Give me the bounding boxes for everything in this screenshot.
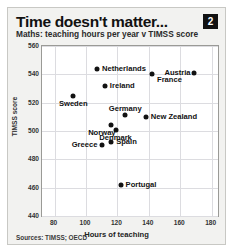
gridline-horizontal <box>42 159 218 160</box>
point-label: Sweden <box>59 99 88 108</box>
scatter-point <box>118 182 123 187</box>
scatter-point <box>109 140 114 145</box>
point-label: Netherlands <box>102 64 146 73</box>
y-tick-label: 560 <box>28 42 39 49</box>
scatter-point <box>192 70 197 75</box>
chart-subtitle: Maths: teaching hours per year v TIMSS s… <box>16 29 198 39</box>
scatter-point <box>150 72 155 77</box>
point-label: Germany <box>109 104 142 113</box>
panel-number-badge: 2 <box>203 14 218 29</box>
scatter-point <box>71 93 76 98</box>
y-tick-label: 540 <box>28 70 39 77</box>
gridline-horizontal <box>42 46 218 47</box>
x-axis-ticks: 80100120140160180 <box>41 219 219 230</box>
y-axis-label: TIMSS score <box>11 97 18 137</box>
x-tick-label: 100 <box>79 219 90 226</box>
scatter-point <box>123 113 128 118</box>
scatter-point <box>143 114 148 119</box>
y-tick-label: 480 <box>28 155 39 162</box>
chart-card: Time doesn't matter... 2 Maths: teaching… <box>7 7 226 245</box>
y-tick-label: 460 <box>28 183 39 190</box>
y-tick-label: 440 <box>28 212 39 219</box>
point-label: New Zealand <box>151 112 197 121</box>
point-label: Portugal <box>126 180 157 189</box>
point-label: Spain <box>116 137 137 146</box>
scatter-point <box>113 127 118 132</box>
x-tick-label: 160 <box>174 219 185 226</box>
source-note: Sources: TIMSS; OECD <box>16 234 87 241</box>
gridline-horizontal <box>42 216 218 217</box>
y-axis-ticks: 440460480500520540560 <box>16 45 39 217</box>
x-tick-label: 140 <box>142 219 153 226</box>
point-label: Greece <box>72 140 98 149</box>
plot-area: NetherlandsAustriaFranceIrelandSwedenGer… <box>41 45 219 217</box>
x-tick-label: 180 <box>205 219 216 226</box>
scatter-point <box>102 83 107 88</box>
point-label: Ireland <box>110 81 135 90</box>
x-tick-label: 80 <box>50 219 57 226</box>
scatter-point <box>99 143 104 148</box>
x-tick-label: 120 <box>111 219 122 226</box>
y-tick-label: 500 <box>28 127 39 134</box>
point-label: France <box>157 75 182 84</box>
y-tick-label: 520 <box>28 98 39 105</box>
scatter-point <box>95 66 100 71</box>
